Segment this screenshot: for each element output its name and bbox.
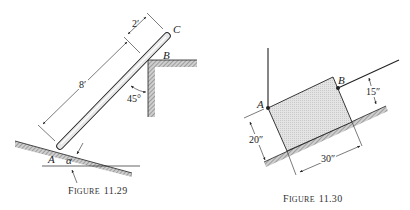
wall-corner xyxy=(148,60,197,117)
point-a-label: A xyxy=(47,153,55,165)
point-b xyxy=(336,86,340,90)
alpha-label: α xyxy=(66,154,72,166)
alpha-arrow-top xyxy=(77,143,83,154)
inclined-rope xyxy=(338,60,399,88)
dimension-30in-label: 30″ xyxy=(321,153,335,164)
figure-11-30: 20″ 30″ 15″ A B FIGURE11.30 xyxy=(244,48,399,204)
dimension-8ft xyxy=(38,37,140,141)
point-c-label: C xyxy=(173,23,181,35)
angle-45-label: 45° xyxy=(127,93,141,104)
alpha-arrow-bottom xyxy=(72,170,77,183)
point-a xyxy=(266,106,270,110)
point-a-label: A xyxy=(256,98,264,110)
point-b-label: B xyxy=(163,49,170,61)
figure-caption-11-29: FIGURE11.29 xyxy=(68,185,127,196)
figure-11-29: 8′ 2′ 45° A α B C FIGURE11.29 xyxy=(15,13,197,196)
dimension-2ft-label: 2′ xyxy=(132,18,139,29)
dimension-20in-label: 20″ xyxy=(249,134,263,145)
dimension-15in-label: 15″ xyxy=(366,86,380,97)
point-b-label: B xyxy=(338,74,345,86)
angle-45-arc xyxy=(131,86,146,92)
diagram-canvas: 8′ 2′ 45° A α B C FIGURE11.29 xyxy=(0,0,410,210)
figure-caption-11-30: FIGURE11.30 xyxy=(283,193,342,204)
inclined-ground xyxy=(15,141,132,177)
dimension-8ft-label: 8′ xyxy=(79,79,86,90)
